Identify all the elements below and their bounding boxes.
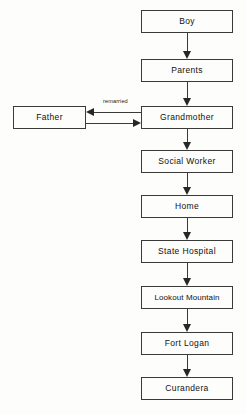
connector-grandmother-to-social-worker — [183, 129, 191, 150]
connector-home-to-state-hospital — [183, 218, 191, 240]
node-parents[interactable]: Parents — [141, 59, 233, 82]
node-curandera[interactable]: Curandera — [141, 377, 233, 400]
node-boy-label: Boy — [179, 17, 195, 26]
node-curandera-label: Curandera — [165, 384, 208, 393]
connector-boy-to-parents — [183, 33, 191, 59]
node-grandmother-label: Grandmother — [160, 113, 214, 122]
node-home-label: Home — [175, 202, 199, 211]
node-father-label: Father — [36, 113, 63, 122]
node-fort-logan[interactable]: Fort Logan — [141, 332, 233, 355]
node-fort-logan-label: Fort Logan — [165, 339, 210, 348]
connector-social-worker-to-home — [183, 173, 191, 195]
node-social-worker[interactable]: Social Worker — [141, 150, 233, 173]
connector-fort-logan-to-curandera — [183, 355, 191, 377]
node-boy[interactable]: Boy — [141, 10, 233, 33]
node-social-worker-label: Social Worker — [158, 157, 215, 166]
node-parents-label: Parents — [171, 66, 203, 75]
edge-label-remarried: remarried — [103, 99, 128, 105]
node-grandmother[interactable]: Grandmother — [141, 106, 233, 129]
connector-state-hospital-to-lookout-mountain — [183, 263, 191, 286]
node-lookout-mountain[interactable]: Lookout Mountain — [141, 286, 233, 309]
node-home[interactable]: Home — [141, 195, 233, 218]
connector-lookout-mountain-to-fort-logan — [183, 309, 191, 332]
flowchart-canvas: Boy Parents Father Grandmother Social Wo… — [0, 0, 246, 414]
connector-parents-to-grandmother — [183, 82, 191, 106]
node-state-hospital[interactable]: State Hospital — [141, 240, 233, 263]
connector-father-to-grandmother — [86, 119, 141, 127]
node-lookout-mountain-label: Lookout Mountain — [154, 294, 219, 302]
connector-grandmother-to-father — [86, 108, 141, 116]
node-state-hospital-label: State Hospital — [158, 247, 216, 256]
node-father[interactable]: Father — [13, 106, 86, 129]
